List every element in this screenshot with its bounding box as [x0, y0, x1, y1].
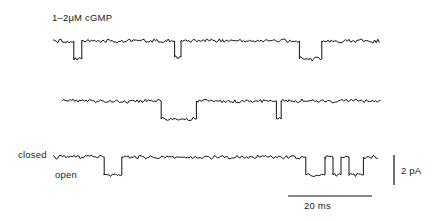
single-channel-recording-figure: 1–2μM cGMP closed open 2 pA 20 ms — [0, 0, 440, 221]
current-trace-sweep-2 — [62, 99, 380, 121]
traces-canvas — [0, 0, 440, 221]
current-trace-sweep-1 — [53, 39, 379, 61]
current-trace-sweep-3 — [53, 155, 378, 177]
